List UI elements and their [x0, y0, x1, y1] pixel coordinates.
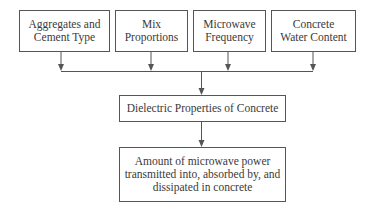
box-label: Amount of microwave power transmitted in… — [125, 155, 281, 194]
box-label: Dielectric Properties of Concrete — [127, 102, 279, 115]
input-box-microwave-frequency: Microwave Frequency — [193, 10, 266, 52]
arrowhead-icon — [225, 64, 231, 71]
arrowhead-icon — [148, 64, 154, 71]
arrowhead-icon — [58, 64, 64, 71]
dielectric-properties-box: Dielectric Properties of Concrete — [119, 95, 286, 122]
arrowhead-icon — [310, 64, 316, 71]
arrowhead-icon — [199, 140, 205, 147]
microwave-power-outcome-box: Amount of microwave power transmitted in… — [119, 147, 286, 202]
input-box-water-content: Concrete Water Content — [271, 10, 356, 52]
arrowhead-icon — [199, 88, 205, 95]
box-label: Concrete Water Content — [280, 18, 346, 44]
box-label: Mix Proportions — [125, 18, 179, 44]
box-label: Aggregates and Cement Type — [29, 18, 101, 44]
box-label: Microwave Frequency — [203, 18, 255, 44]
input-box-mix-proportions: Mix Proportions — [115, 10, 188, 52]
input-box-aggregates-cement: Aggregates and Cement Type — [19, 10, 110, 52]
